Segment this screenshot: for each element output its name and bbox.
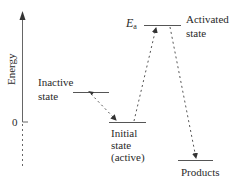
activated-state-label-line1: Activated <box>186 13 229 25</box>
energy-axis-label: Energy <box>5 55 17 85</box>
activation-energy-label: Ea <box>126 17 137 33</box>
initial-state-label-line3: (active) <box>111 151 145 163</box>
activation-energy-subscript: a <box>133 22 137 31</box>
transition-initial-to-activated-arrow <box>134 28 156 121</box>
energy-axis <box>20 11 29 168</box>
inactive-state-label-line1: Inactive <box>38 76 73 88</box>
inactive-state-label-line2: state <box>38 90 58 102</box>
transition-inactive-to-initial-arrow <box>91 94 116 120</box>
products-label: Products <box>181 166 220 178</box>
zero-label: 0 <box>12 116 18 128</box>
activated-state-label-line2: state <box>186 27 206 39</box>
transition-activated-to-products-arrow <box>170 27 196 158</box>
energy-diagram: Energy 0 Inactive state Initial state (a… <box>0 0 236 180</box>
initial-state-label-line2: state <box>111 139 131 151</box>
axis-arrow-icon <box>20 11 26 20</box>
initial-state-label-line1: Initial <box>111 127 137 139</box>
